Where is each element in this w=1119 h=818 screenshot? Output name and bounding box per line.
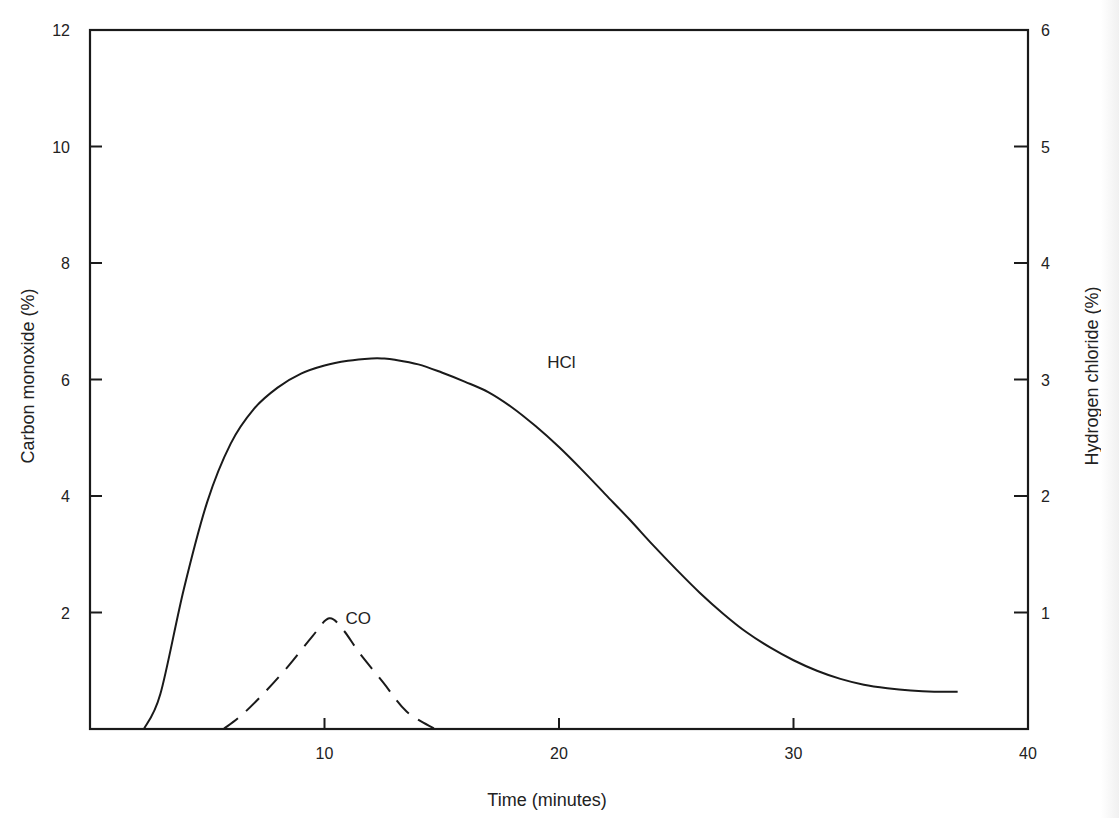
plot-frame	[90, 30, 1028, 729]
hcl-curve-label: HCl	[547, 353, 575, 372]
y2-tick-label: 6	[1041, 22, 1050, 39]
y2-tick-label: 3	[1041, 372, 1050, 389]
series-layer	[144, 358, 958, 729]
x-tick-label: 20	[550, 745, 568, 762]
x-tick-label: 10	[316, 745, 334, 762]
page-edge-shadow	[1101, 0, 1119, 818]
co-curve	[224, 618, 435, 729]
y2-tick-label: 4	[1041, 255, 1050, 272]
plot-border	[90, 30, 1028, 729]
y-tick-label: 6	[61, 372, 70, 389]
y-tick-label: 12	[52, 22, 70, 39]
y-axis-right: 123456	[1014, 22, 1050, 622]
chart: 10203040 24681012 123456 HCl CO Time (mi…	[0, 0, 1119, 818]
y-tick-label: 10	[52, 139, 70, 156]
y2-tick-label: 5	[1041, 139, 1050, 156]
x-tick-label: 30	[785, 745, 803, 762]
x-tick-label: 40	[1019, 745, 1037, 762]
y-tick-label: 2	[61, 605, 70, 622]
hcl-curve	[144, 358, 958, 729]
y-axis-right-title: Hydrogen chloride (%)	[1082, 286, 1102, 465]
y-axis-left: 24681012	[52, 22, 102, 622]
y-tick-label: 8	[61, 255, 70, 272]
x-axis: 10203040	[316, 718, 1037, 762]
co-curve-label: CO	[346, 609, 372, 628]
y-tick-label: 4	[61, 488, 70, 505]
x-axis-title: Time (minutes)	[487, 790, 606, 810]
y-axis-left-title: Carbon monoxide (%)	[18, 288, 38, 463]
y2-tick-label: 2	[1041, 488, 1050, 505]
y2-tick-label: 1	[1041, 605, 1050, 622]
